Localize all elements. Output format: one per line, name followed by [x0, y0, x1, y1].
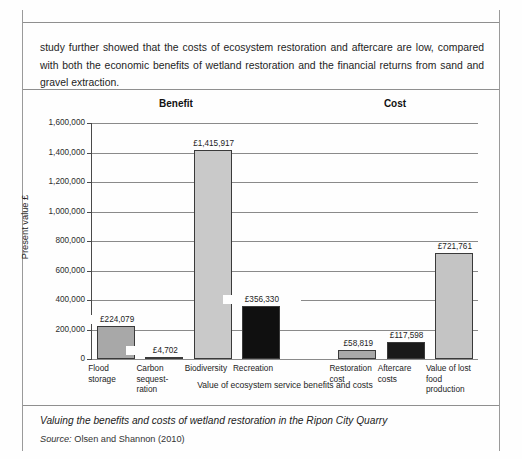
y-axis-tick-label: 400,000	[55, 295, 85, 304]
bar-value-label: £224,079	[78, 315, 156, 324]
y-axis-tick-label: 0	[80, 354, 85, 363]
bar-value-label: £1,415,917	[175, 139, 253, 148]
group-heading-cost: Cost	[360, 98, 430, 109]
figure-page: study further showed that the costs of e…	[0, 0, 522, 459]
divider-below-chart	[23, 405, 499, 406]
bar-chart: Benefit Cost Present value £ 0200,000400…	[0, 92, 522, 402]
source-text: Olsen and Shannon (2010)	[74, 434, 184, 444]
bar-value-label: £721,761	[416, 242, 494, 251]
bar[interactable]	[435, 253, 473, 359]
bar[interactable]	[387, 342, 425, 359]
figure-caption: Valuing the benefits and costs of wetlan…	[40, 415, 490, 426]
bar-value-label: £356,330	[223, 295, 301, 304]
bar[interactable]	[242, 306, 280, 359]
y-axis-tick	[87, 212, 92, 213]
gridline	[92, 212, 478, 213]
y-axis-tick	[87, 300, 92, 301]
y-axis-tick	[87, 153, 92, 154]
y-axis-tick	[87, 330, 92, 331]
y-axis-tick	[87, 123, 92, 124]
body-paragraph: study further showed that the costs of e…	[40, 39, 484, 92]
y-axis-tick-label: 600,000	[55, 266, 85, 275]
plot-area: £224,079Floodstorage£4,702Carbonsequest-…	[92, 123, 478, 359]
bar[interactable]	[338, 350, 376, 359]
y-axis-tick-label: 1,400,000	[49, 148, 85, 157]
y-axis-tick-label: 200,000	[55, 325, 85, 334]
figure-source: Source: Olsen and Shannon (2010)	[40, 434, 490, 444]
y-axis-tick	[87, 241, 92, 242]
y-axis-tick	[87, 359, 92, 360]
x-axis-title: Value of ecosystem service benefits and …	[92, 380, 478, 390]
y-axis-tick-label: 1,200,000	[49, 177, 85, 186]
gridline	[92, 359, 478, 360]
y-axis-tick	[87, 182, 92, 183]
group-heading-benefit: Benefit	[141, 98, 211, 109]
divider-top	[23, 22, 499, 23]
gridline	[92, 123, 478, 124]
x-axis-category-label: Recreation	[233, 363, 293, 374]
y-axis-tick-label: 1,600,000	[49, 118, 85, 127]
y-axis-tick-label: 800,000	[55, 236, 85, 245]
gridline	[92, 271, 478, 272]
gridline	[92, 182, 478, 183]
y-axis-tick-labels: 0200,000400,000600,000800,0001,000,0001,…	[0, 123, 85, 359]
bar[interactable]	[145, 357, 183, 359]
y-axis-tick	[87, 271, 92, 272]
gridline	[92, 153, 478, 154]
source-label: Source:	[40, 434, 72, 444]
bar[interactable]	[194, 150, 232, 359]
y-axis-tick-label: 1,000,000	[49, 207, 85, 216]
